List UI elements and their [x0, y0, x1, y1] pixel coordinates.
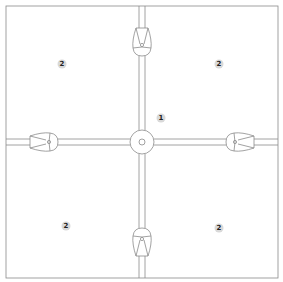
node-left: [30, 133, 58, 151]
label-top-right: 2: [215, 60, 224, 69]
label-center: 1: [157, 114, 166, 123]
diagram-canvas: 1 2 2 2 2: [0, 0, 283, 282]
label-top-left: 2: [58, 60, 67, 69]
label-bottom-right: 2: [215, 224, 224, 233]
plan-drawing: [0, 0, 283, 282]
node-right: [226, 133, 254, 151]
label-bottom-left: 2: [62, 222, 71, 231]
node-top: [133, 28, 151, 56]
junction-center: [130, 130, 154, 154]
node-bottom: [133, 228, 151, 256]
